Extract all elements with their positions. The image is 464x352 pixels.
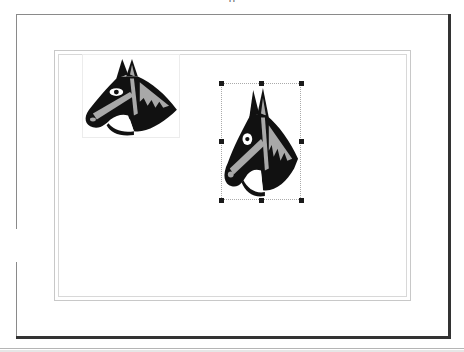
resize-handle-top-center[interactable] [259, 81, 264, 86]
document-workspace: g [0, 0, 464, 352]
page-left-edge [16, 14, 17, 229]
horse-head-icon [222, 84, 300, 199]
page-shadow-bottom [16, 336, 451, 339]
horse-head-icon [83, 55, 179, 137]
resize-handle-top-right[interactable] [299, 81, 304, 86]
resize-handle-bottom-right[interactable] [299, 198, 304, 203]
resize-handle-bottom-center[interactable] [259, 198, 264, 203]
page-left-edge [16, 262, 17, 337]
horse-head-picture[interactable] [82, 54, 180, 138]
clipped-heading-text: g [0, 0, 464, 2]
resize-handle-middle-left[interactable] [219, 139, 224, 144]
resize-handle-bottom-left[interactable] [219, 198, 224, 203]
horse-head-picture-selected[interactable] [221, 83, 301, 200]
window-bottom-divider [0, 348, 464, 349]
resize-handle-top-left[interactable] [219, 81, 224, 86]
resize-handle-middle-right[interactable] [299, 139, 304, 144]
page-shadow-right [448, 14, 451, 339]
